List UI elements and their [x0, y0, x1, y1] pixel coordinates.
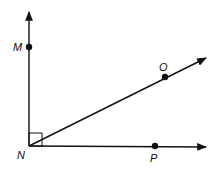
- label-o: O: [159, 61, 168, 73]
- right-angle-marker: [29, 133, 42, 146]
- label-m: M: [13, 41, 23, 53]
- ray-np: [29, 146, 206, 147]
- ray-no: [29, 58, 206, 146]
- angle-diagram: M O P N: [0, 0, 219, 171]
- point-o: [162, 74, 168, 80]
- point-m: [26, 44, 32, 50]
- label-n: N: [17, 149, 25, 161]
- label-p: P: [150, 152, 158, 164]
- point-p: [152, 143, 158, 149]
